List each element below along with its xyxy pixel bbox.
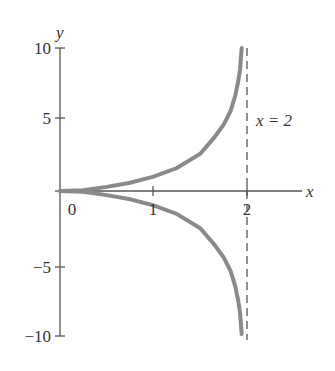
x-tick-label-2: 2 <box>243 200 252 219</box>
y-tick-label-m10: −10 <box>24 327 51 346</box>
chart: y x x = 2 10 5 −5 −10 0 1 2 <box>0 0 335 371</box>
y-tick-label-5: 5 <box>43 109 52 128</box>
y-tick-label-m5: −5 <box>33 258 51 277</box>
y-tick-label-10: 10 <box>34 39 51 58</box>
y-axis-label: y <box>54 23 64 42</box>
x-axis-label: x <box>305 182 314 201</box>
curve-upper <box>60 48 242 191</box>
x-tick-label-1: 1 <box>149 200 158 219</box>
asymptote-label: x = 2 <box>255 111 293 130</box>
x-tick-label-0: 0 <box>68 200 77 219</box>
